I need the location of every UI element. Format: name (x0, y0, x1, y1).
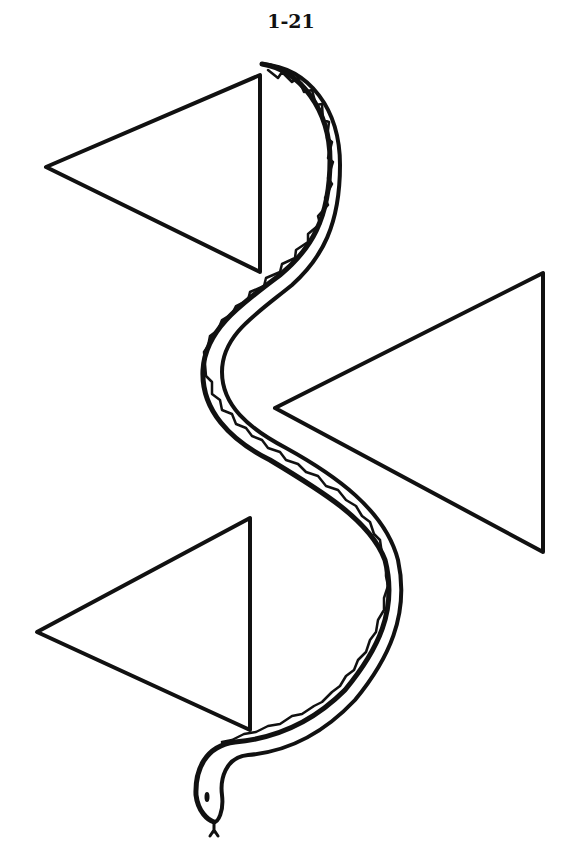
triangle-top-left (46, 75, 260, 272)
triangle-middle-right (275, 273, 543, 552)
triangle-bottom-left (37, 518, 250, 730)
snake-and-triangles-illustration (0, 0, 582, 853)
